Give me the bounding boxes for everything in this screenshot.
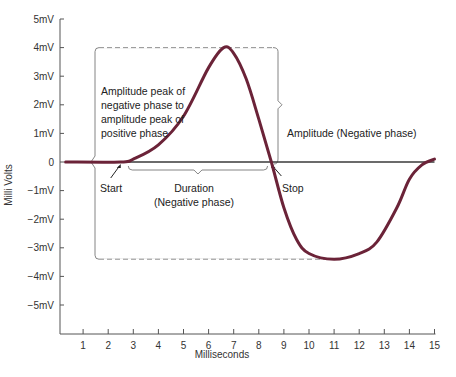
amplitude-peak-text: positive phase: [101, 127, 168, 139]
duration-bracket: [128, 166, 267, 174]
x-tick-label: 1: [80, 340, 86, 351]
y-tick-label: −3mV: [28, 242, 55, 253]
start-label: Start: [100, 182, 122, 194]
stop-label: Stop: [282, 182, 304, 194]
x-tick-label: 9: [281, 340, 287, 351]
x-tick-label: 13: [379, 340, 391, 351]
amplitude-peak-text: amplitude peak of: [101, 113, 184, 125]
duration-text: (Negative phase): [154, 196, 234, 208]
annotations: [91, 48, 331, 260]
start-arrowhead-icon: [117, 164, 121, 168]
x-tick-label: 5: [181, 340, 187, 351]
y-tick-label: −2mV: [28, 214, 55, 225]
x-tick-label: 12: [354, 340, 366, 351]
amplitude-peak-text: negative phase to: [101, 99, 184, 111]
x-tick-label: 8: [256, 340, 262, 351]
x-tick-label: 11: [329, 340, 340, 351]
y-tick-label: −1mV: [28, 185, 55, 196]
amplitude-peak-bracket: [91, 48, 319, 260]
x-axis-label: Milliseconds: [195, 349, 249, 360]
labels: MillisecondsMilli VoltsAmplitude peak of…: [3, 85, 417, 360]
amplitude-negative-bracket: [273, 48, 282, 164]
axes: 5mV4mV3mV2mV1mV0−1mV−2mV−3mV−4mV−5mV1234…: [28, 14, 441, 352]
series: [66, 47, 435, 259]
x-tick-label: 4: [156, 340, 162, 351]
waveform-line: [66, 47, 435, 259]
waveform-chart: 5mV4mV3mV2mV1mV0−1mV−2mV−3mV−4mV−5mV1234…: [0, 0, 456, 377]
y-tick-label: −4mV: [28, 271, 55, 282]
y-tick-label: 0: [48, 157, 54, 168]
amplitude-peak-text: Amplitude peak of: [101, 85, 185, 97]
y-tick-label: 2mV: [33, 99, 54, 110]
y-tick-label: 1mV: [33, 128, 54, 139]
amplitude-negative-text: Amplitude (Negative phase): [287, 127, 417, 139]
x-tick-label: 15: [429, 340, 441, 351]
x-tick-label: 3: [131, 340, 137, 351]
duration-text: Duration: [174, 182, 214, 194]
y-tick-label: 5mV: [33, 14, 54, 25]
y-tick-label: −5mV: [28, 300, 55, 311]
y-axis-label: Milli Volts: [3, 164, 14, 206]
x-tick-label: 10: [303, 340, 315, 351]
y-tick-label: 3mV: [33, 71, 54, 82]
x-tick-label: 14: [404, 340, 416, 351]
x-tick-label: 2: [105, 340, 111, 351]
y-tick-label: 4mV: [33, 42, 54, 53]
